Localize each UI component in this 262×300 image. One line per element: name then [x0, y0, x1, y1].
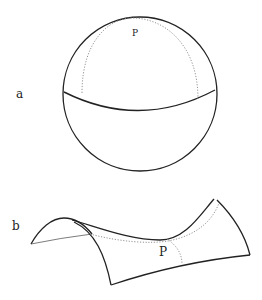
- saddle-dotted-horizontal: [90, 203, 219, 242]
- panel-a-sphere: P a: [16, 17, 217, 171]
- saddle-dotted-vertical: [167, 239, 182, 264]
- sphere-dotted-meridian: [82, 18, 198, 99]
- panel-b-saddle: P b: [12, 199, 250, 285]
- sphere-outline: [63, 17, 217, 171]
- panel-b-label: b: [12, 219, 20, 233]
- panel-a-label: a: [16, 87, 23, 101]
- sphere-equator: [64, 90, 215, 111]
- saddle-point-label: P: [159, 245, 167, 259]
- saddle-front-edge: [74, 222, 111, 285]
- saddle-left-hump: [31, 218, 92, 244]
- saddle-bottom-edge: [111, 255, 250, 285]
- sphere-point-label: P: [132, 28, 138, 38]
- saddle-right-edge: [217, 200, 250, 255]
- saddle-back-edge: [31, 234, 92, 244]
- curvature-diagram: P a P b: [0, 0, 262, 300]
- saddle-top-edge: [72, 199, 214, 240]
